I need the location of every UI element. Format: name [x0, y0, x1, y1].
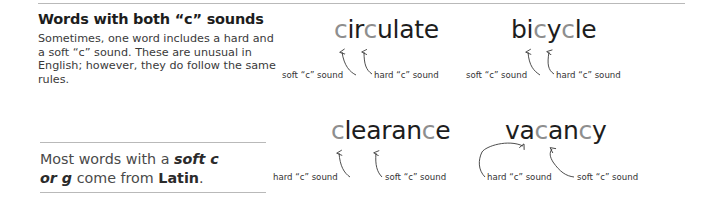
- callout-label-vacancy-soft: soft “c” sound: [577, 172, 638, 182]
- callout-label-bicycle-soft: soft “c” sound: [466, 70, 527, 80]
- rule-box-top-divider: [40, 142, 266, 143]
- intro-paragraph: Sometimes, one word includes a hard and …: [38, 32, 276, 86]
- rule-box-bottom-divider: [40, 192, 266, 193]
- letter-group-2: ir: [347, 15, 363, 44]
- example-word-clearance: clearance: [331, 117, 450, 145]
- letter-group-2: learan: [344, 116, 421, 145]
- latin-rule-or-g: or g: [40, 170, 72, 186]
- letter-group-3: y: [547, 15, 562, 44]
- letter-c-2: c: [364, 15, 377, 44]
- example-word-vacancy: vacancy: [505, 117, 607, 145]
- latin-rule-line1-plain: Most words with a: [40, 151, 174, 167]
- letter-group-3: an: [548, 116, 579, 145]
- letter-c-1: c: [535, 116, 548, 145]
- arrow-bicycle-soft: [528, 52, 540, 75]
- arrow-clearance-hard: [339, 153, 350, 177]
- latin-rule-latin: Latin: [158, 170, 199, 186]
- callout-label-vacancy-hard: hard “c” sound: [487, 172, 552, 182]
- arrow-circulate-hard: [364, 52, 372, 74]
- callout-label-circulate-hard: hard “c” sound: [374, 70, 439, 80]
- latin-rule-callout: Most words with a soft cor g come from L…: [40, 150, 275, 188]
- arrow-circulate-soft: [342, 52, 356, 75]
- letter-group-4: e: [435, 116, 450, 145]
- callout-label-clearance-soft: soft “c” sound: [385, 172, 446, 182]
- letter-group-4: ulate: [377, 15, 439, 44]
- letter-group-5: le: [575, 15, 597, 44]
- arrow-clearance-soft: [376, 153, 382, 177]
- letter-c-2: c: [579, 116, 592, 145]
- callout-label-clearance-hard: hard “c” sound: [273, 172, 338, 182]
- latin-rule-period: .: [199, 170, 204, 186]
- arrow-vacancy-soft: [550, 149, 574, 177]
- example-word-circulate: circulate: [334, 16, 439, 44]
- letter-group-1: va: [505, 116, 535, 145]
- latin-rule-line2-plain: come from: [72, 170, 158, 186]
- top-divider: [38, 3, 685, 4]
- page-title: Words with both “c” sounds: [38, 11, 288, 28]
- arrow-bicycle-hard: [548, 52, 554, 74]
- letter-c-1: c: [334, 15, 347, 44]
- latin-rule-soft-c: soft c: [174, 151, 219, 167]
- letter-group-5: y: [592, 116, 607, 145]
- callout-label-bicycle-hard: hard “c” sound: [556, 70, 621, 80]
- letter-c-1: c: [331, 116, 344, 145]
- letter-c-2: c: [561, 15, 574, 44]
- letter-c-1: c: [533, 15, 546, 44]
- letter-c-2: c: [422, 116, 435, 145]
- callout-label-circulate-soft: soft “c” sound: [282, 70, 343, 80]
- example-word-bicycle: bicycle: [511, 16, 596, 44]
- letter-group-1: bi: [511, 15, 533, 44]
